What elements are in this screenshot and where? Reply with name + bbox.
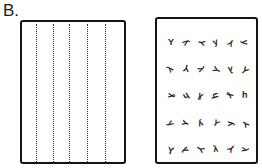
seed-mark: λ bbox=[180, 145, 190, 153]
dotted-line bbox=[69, 24, 70, 162]
seed-mark: ɣ bbox=[196, 90, 204, 100]
seed-mark: ɥ bbox=[242, 91, 248, 100]
dotted-line bbox=[105, 24, 106, 162]
dotted-line bbox=[53, 24, 54, 162]
seed-mark: Y bbox=[196, 38, 206, 46]
seed-mark: ⅄ bbox=[196, 145, 207, 155]
seed-mark: λ bbox=[240, 146, 250, 152]
seed-mark: ⅄ bbox=[211, 65, 222, 74]
seed-mark: ɣ bbox=[225, 91, 235, 100]
seed-mark: ⅄ bbox=[226, 144, 237, 155]
seed-mark: ʎ bbox=[240, 40, 249, 46]
seed-mark: Y bbox=[240, 118, 250, 129]
seed-mark: ɥ bbox=[181, 90, 190, 101]
seed-mark: Y bbox=[181, 119, 191, 127]
seed-mark: λ bbox=[166, 64, 176, 74]
dotted-line bbox=[87, 24, 88, 162]
seed-mark: Y bbox=[211, 118, 221, 129]
seed-mark: ɣ bbox=[166, 93, 175, 99]
seed-mark: λ bbox=[227, 65, 234, 75]
left-panel-rows bbox=[20, 20, 126, 164]
seed-mark: ⅄ bbox=[182, 65, 190, 75]
seed-mark: ⅄ bbox=[240, 64, 251, 75]
figure-label: B. bbox=[3, 2, 19, 19]
right-panel-scattered: YʎYʎYʎλ⅄λ⅄λ⅄ɣɥɣɥɣɥʎYʎYʎY⅄λ⅄λ⅄λ bbox=[155, 17, 258, 164]
seed-mark: ɥ bbox=[211, 92, 221, 100]
seed-mark: ʎ bbox=[212, 37, 220, 47]
seed-mark: Y bbox=[226, 37, 236, 48]
seed-mark: λ bbox=[195, 65, 205, 73]
seed-mark: ⅄ bbox=[167, 144, 175, 154]
seed-mark: Y bbox=[168, 38, 174, 47]
dotted-line bbox=[36, 24, 37, 162]
seed-mark: ʎ bbox=[197, 118, 205, 128]
seed-mark: λ bbox=[212, 145, 218, 155]
seed-mark: ʎ bbox=[165, 119, 175, 128]
seed-mark: ʎ bbox=[180, 38, 190, 47]
seed-mark: ʎ bbox=[226, 121, 235, 127]
